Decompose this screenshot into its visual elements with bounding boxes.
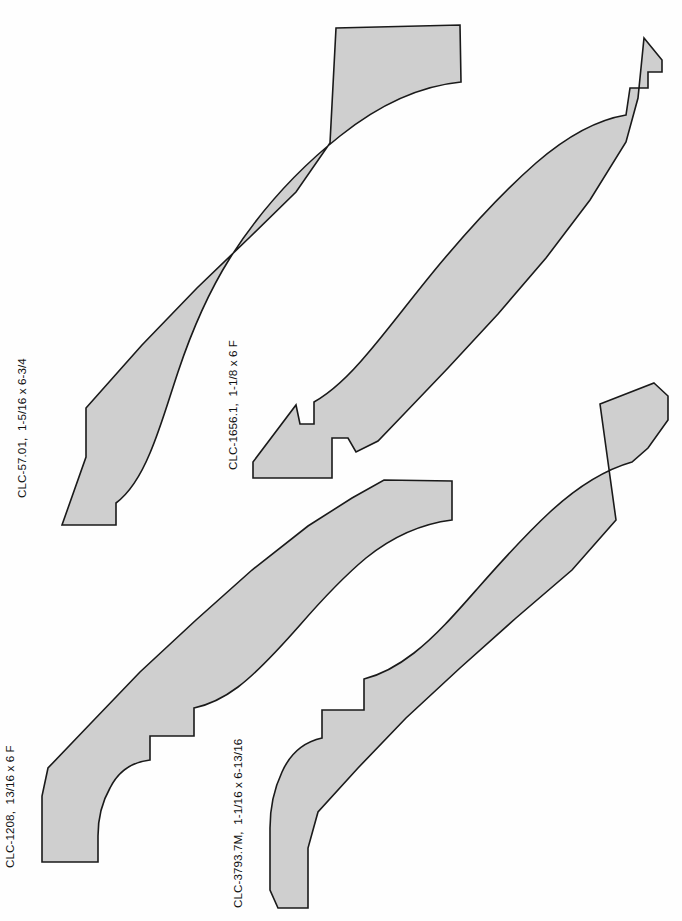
profile-label-1: CLC-57.01, 1-5/16 x 6-3/4: [15, 358, 28, 498]
profile-label-3: CLC-1208, 13/16 x 6 F: [3, 745, 16, 868]
profiles-canvas: CLC-57.01, 1-5/16 x 6-3/4 CLC-1656.1, 1-…: [0, 0, 682, 921]
profile-label-4: CLC-3793.7M, 1-1/16 x 6-13/16: [231, 739, 244, 908]
profile-label-2: CLC-1656.1, 1-1/8 x 6 F: [226, 340, 239, 470]
profile-group-2: CLC-1656.1, 1-1/8 x 6 F: [226, 38, 662, 478]
molding-profile-sheet: CLC-57.01, 1-5/16 x 6-3/4 CLC-1656.1, 1-…: [0, 0, 682, 921]
